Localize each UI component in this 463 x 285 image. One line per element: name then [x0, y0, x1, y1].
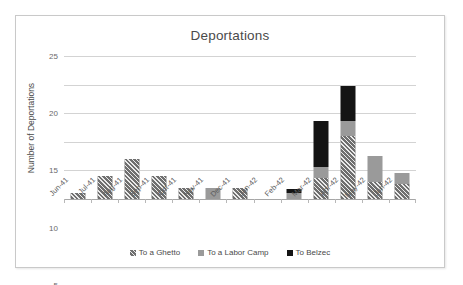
x-label-slot: Jun-41 — [64, 205, 91, 245]
chart-title: Deportations — [16, 28, 444, 43]
chart-container: Deportations Number of Deportations 0510… — [15, 15, 445, 268]
legend-item-belzec[interactable]: To Belzec — [287, 248, 331, 257]
y-tick-label: 25 — [49, 52, 58, 61]
bar-segment-labor[interactable] — [341, 121, 356, 136]
legend-item-ghetto[interactable]: To a Ghetto — [130, 248, 180, 257]
x-label-slot: Mar-42 — [308, 205, 335, 245]
x-label-slot: Dec-41 — [226, 205, 253, 245]
bar-segment-belzec[interactable] — [341, 86, 356, 120]
x-label-slot: Sep-41 — [145, 205, 172, 245]
legend-label: To a Labor Camp — [207, 248, 268, 257]
x-label-slot: May-42 — [362, 205, 389, 245]
y-tick-label: 20 — [49, 109, 58, 118]
y-axis-title-text: Number of Deportations — [26, 82, 36, 172]
legend-label: To Belzec — [296, 248, 331, 257]
x-label-slot: Feb-42 — [281, 205, 308, 245]
y-axis-title: Number of Deportations — [24, 56, 38, 199]
bar-segment-labor[interactable] — [395, 173, 410, 184]
chart-legend: To a GhettoTo a Labor CampTo Belzec — [16, 248, 444, 257]
x-label-slot: Jul-41 — [91, 205, 118, 245]
bar-segment-belzec[interactable] — [314, 121, 329, 167]
x-label-slot: Nov-41 — [199, 205, 226, 245]
y-tick-label: 5 — [54, 280, 58, 285]
legend-item-labor[interactable]: To a Labor Camp — [198, 248, 268, 257]
bar-segment-ghetto[interactable] — [395, 184, 410, 199]
bar-segment-labor[interactable] — [368, 156, 383, 182]
legend-swatch-labor — [198, 250, 204, 256]
x-label-slot: Apr-42 — [335, 205, 362, 245]
legend-swatch-ghetto — [130, 250, 136, 256]
x-axis-tick-labels: Jun-41Jul-41Aug-41Sep-41Oct-41Nov-41Dec-… — [64, 205, 416, 245]
bar-segment-labor[interactable] — [314, 167, 329, 178]
y-tick-label: 10 — [49, 223, 58, 232]
y-tick-label: 15 — [49, 166, 58, 175]
x-tick-mark — [415, 199, 416, 203]
x-label-slot: Jun-42 — [389, 205, 416, 245]
legend-label: To a Ghetto — [139, 248, 180, 257]
x-label-slot: Oct-41 — [172, 205, 199, 245]
bar-slot-jun-42[interactable] — [389, 56, 416, 199]
bar-stack[interactable] — [395, 173, 410, 199]
x-tick-mark — [389, 199, 390, 203]
legend-swatch-belzec — [287, 250, 293, 256]
x-label-slot: Aug-41 — [118, 205, 145, 245]
x-label-slot: Jan-42 — [254, 205, 281, 245]
